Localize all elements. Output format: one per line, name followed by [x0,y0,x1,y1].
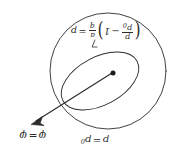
pressure-label: p=p0 [76,133,114,148]
formula-one: 1 [104,26,110,36]
formula-coeff-den: q [89,23,96,32]
formula-paren-open: ( [135,21,141,41]
pressure-equals: = [93,136,101,146]
formula-lhs: p [71,26,77,36]
formula-frac-den-sub: 0 [123,21,127,29]
formula-paren-close: ) [98,21,104,41]
formula-minus: − [112,26,120,36]
radius-arrow-shaft [36,73,112,121]
potential-symbol: φ [39,131,46,142]
pressure-value-sub: 0 [81,137,85,144]
formula-coeff-num: a [89,32,96,40]
formula-fraction-coeff: aq [89,23,96,40]
radius-arrow-head [31,117,44,126]
formula-frac-num: p [124,33,131,41]
potential-label: φ=φ [12,128,54,144]
formula-frac-den-sym: p [127,24,132,33]
pressure-value: p [85,136,91,146]
formula-fraction-pressure: pp0 [122,21,133,40]
center-dot [111,71,116,76]
potential-value: φ [20,131,27,142]
potential-equals: = [29,131,38,142]
pressure-symbol: p [103,136,109,146]
formula-equals: = [79,26,87,36]
formula-label: (pp0−1)aq=p [66,19,146,43]
figure-canvas: (pp0−1)aq=p φ=φ p=p0 [0,0,180,162]
formula-frac-den: p0 [122,21,133,32]
